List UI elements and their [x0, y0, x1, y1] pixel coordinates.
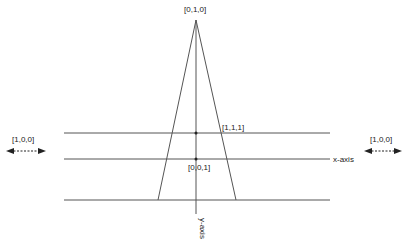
- label-111: [1,1,1]: [222, 123, 244, 132]
- label-010: [0,1,0]: [184, 5, 206, 14]
- label-001: [0,0,1]: [188, 163, 210, 172]
- double-arrow-right-icon: [364, 148, 402, 154]
- point-111-dot: [195, 132, 198, 135]
- projective-diagram: [0,1,0] [1,1,1] [0,0,1] x-axis y-axis [1…: [0, 0, 406, 248]
- label-x-axis: x-axis: [333, 155, 354, 164]
- point-001-dot: [195, 158, 198, 161]
- label-y-axis: y-axis: [198, 218, 207, 239]
- triangle-left-side: [158, 20, 196, 200]
- triangle-right-side: [196, 20, 236, 200]
- label-right-direction: [1,0,0]: [370, 135, 392, 144]
- double-arrow-left-icon: [6, 148, 46, 154]
- label-left-direction: [1,0,0]: [12, 135, 34, 144]
